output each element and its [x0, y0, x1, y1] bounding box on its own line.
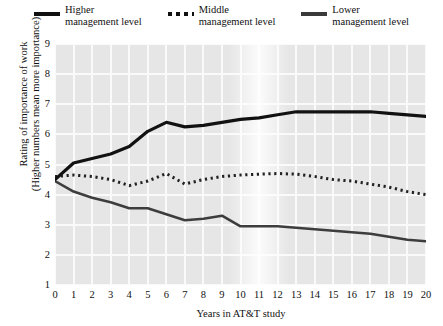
legend-label-lower: Lower management level — [332, 4, 409, 27]
x-tick-label: 15 — [328, 289, 339, 301]
x-tick-label: 7 — [182, 289, 187, 301]
chart-legend: Higher management level Middle managemen… — [0, 4, 443, 40]
x-axis-title: Years in AT&T study — [55, 308, 427, 319]
x-tick-label: 10 — [235, 289, 246, 301]
x-tick-label: 19 — [402, 289, 413, 301]
x-tick-label: 1 — [71, 289, 76, 301]
series-lines — [55, 44, 426, 285]
line-higher-management — [55, 112, 426, 180]
x-tick-label: 0 — [52, 289, 57, 301]
y-tick-label: 8 — [45, 69, 50, 79]
y-tick-label: 1 — [45, 280, 50, 290]
x-axis-ticks: 01234567891011121314151617181920 — [55, 289, 426, 303]
legend-swatch-dotted-icon — [168, 12, 194, 16]
x-tick-label: 5 — [145, 289, 150, 301]
y-tick-label: 2 — [45, 250, 50, 260]
y-tick-label: 6 — [45, 129, 50, 139]
y-tick-label: 4 — [45, 190, 50, 200]
y-tick-label: 9 — [45, 39, 50, 49]
x-tick-label: 16 — [347, 289, 358, 301]
x-tick-label: 14 — [309, 289, 320, 301]
x-tick-label: 13 — [291, 289, 302, 301]
chart-figure: Higher management level Middle managemen… — [0, 0, 443, 326]
legend-label-middle: Middle management level — [199, 4, 276, 27]
y-tick-label: 5 — [45, 160, 50, 170]
legend-label-higher: Higher management level — [65, 4, 142, 27]
x-tick-label: 2 — [89, 289, 94, 301]
y-tick-label: 7 — [45, 99, 50, 109]
x-tick-label: 20 — [421, 289, 432, 301]
x-tick-label: 17 — [365, 289, 376, 301]
x-tick-label: 9 — [219, 289, 224, 301]
plot-area — [55, 44, 426, 285]
legend-item-higher: Higher management level — [34, 4, 142, 27]
x-tick-label: 6 — [164, 289, 169, 301]
x-tick-label: 12 — [272, 289, 283, 301]
x-tick-label: 18 — [384, 289, 395, 301]
y-tick-label: 3 — [45, 220, 50, 230]
x-tick-label: 8 — [201, 289, 206, 301]
legend-swatch-solid-medium-icon — [301, 12, 327, 16]
legend-item-lower: Lower management level — [301, 4, 409, 27]
legend-item-middle: Middle management level — [168, 4, 276, 27]
x-tick-label: 11 — [254, 289, 264, 301]
line-lower-management — [55, 181, 426, 241]
x-tick-label: 3 — [108, 289, 113, 301]
line-middle-management — [55, 174, 426, 195]
x-tick-label: 4 — [127, 289, 132, 301]
y-axis-ticks: 123456789 — [34, 44, 50, 285]
